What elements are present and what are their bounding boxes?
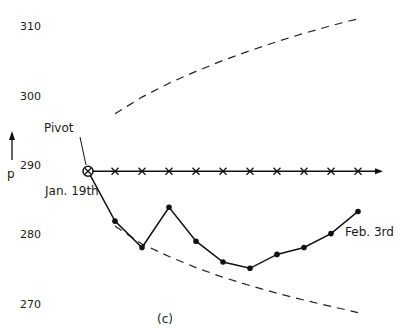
y-tick-label: 280 bbox=[20, 228, 41, 241]
data-point bbox=[166, 204, 172, 210]
y-axis-indicator: p bbox=[7, 131, 15, 181]
pivot-label: Pivot bbox=[44, 121, 74, 135]
pivot-marker bbox=[83, 166, 93, 176]
data-point bbox=[112, 218, 118, 224]
pivot-pointer bbox=[80, 137, 86, 165]
data-point bbox=[355, 209, 361, 215]
y-tick-label: 300 bbox=[20, 90, 41, 103]
data-point bbox=[328, 231, 334, 237]
arrow-head bbox=[375, 168, 383, 174]
data-point bbox=[220, 259, 226, 265]
upper-bound-curve bbox=[115, 19, 358, 114]
figure-caption: (c) bbox=[157, 312, 173, 326]
data-point bbox=[193, 238, 199, 244]
data-point bbox=[139, 245, 145, 251]
y-tick-label: 270 bbox=[20, 298, 41, 311]
data-point bbox=[274, 252, 280, 258]
y-tick-label: 310 bbox=[20, 20, 41, 33]
end-date-label: Feb. 3rd bbox=[345, 225, 394, 239]
data-point bbox=[301, 245, 307, 251]
observed-line bbox=[88, 171, 358, 268]
y-axis-label: p bbox=[7, 167, 15, 181]
y-tick-label: 290 bbox=[20, 159, 41, 172]
start-date-label: Jan. 19th bbox=[44, 184, 99, 198]
chart: 310300290280270 p Pivot Jan. 19th Feb. 3… bbox=[0, 0, 399, 335]
data-point bbox=[247, 265, 253, 271]
